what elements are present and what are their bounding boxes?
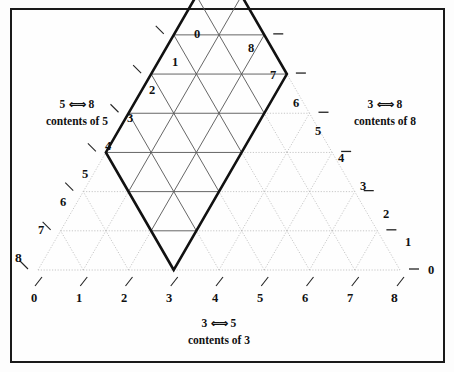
bottom-tick-label-0: 0	[31, 292, 37, 305]
left-tick-label-8: 8	[15, 251, 22, 265]
axis-tick-marks	[20, 0, 419, 286]
left-tick-label-7: 7	[38, 224, 44, 237]
right-tick-label-7: 7	[270, 69, 276, 82]
figure-page: 0 1 2 3 4 5 6 7 8 0 1 2 3 4 5 6 7 8 0 1 …	[0, 0, 454, 372]
left-tick-label-2: 2	[149, 84, 155, 97]
left-caption-to: 8	[88, 98, 94, 110]
right-tick-label-3: 3	[360, 180, 366, 193]
right-tick-label-1: 1	[405, 236, 411, 249]
bottom-axis-caption: 3 ⇐⇒ 5 contents of 3	[164, 315, 274, 349]
right-caption-from: 3	[367, 98, 373, 110]
right-tick-label-0: 0	[428, 264, 434, 277]
right-tick-label-2: 2	[383, 208, 389, 221]
bottom-caption-from: 3	[201, 317, 207, 329]
bottom-caption-to: 5	[230, 317, 236, 329]
right-caption-line2: contents of 8	[330, 113, 440, 130]
right-tick-label-4: 4	[338, 152, 344, 165]
bottom-tick-label-7: 7	[347, 292, 353, 305]
right-tick-label-6: 6	[293, 97, 299, 110]
left-tick-label-1: 1	[172, 56, 178, 69]
left-caption-arrows-icon: ⇐⇒	[69, 98, 85, 110]
left-axis-caption: 5 ⇐⇒ 8 contents of 5	[22, 96, 132, 130]
left-tick-label-0: 0	[194, 28, 200, 41]
right-caption-line1: 3 ⇐⇒ 8	[330, 96, 440, 113]
left-caption-from: 5	[59, 98, 65, 110]
bottom-caption-line2: contents of 3	[164, 332, 274, 349]
bottom-tick-label-3: 3	[166, 292, 172, 305]
right-tick-label-5: 5	[315, 125, 321, 138]
right-tick-label-8: 8	[248, 42, 254, 55]
bottom-tick-label-1: 1	[76, 292, 82, 305]
bottom-tick-label-2: 2	[121, 292, 127, 305]
left-tick-label-6: 6	[60, 196, 66, 209]
left-caption-line2: contents of 5	[22, 113, 132, 130]
bottom-tick-label-4: 4	[212, 292, 218, 305]
bottom-tick-label-5: 5	[257, 292, 263, 305]
left-caption-line1: 5 ⇐⇒ 8	[22, 96, 132, 113]
bottom-tick-label-6: 6	[302, 292, 308, 305]
left-tick-label-4: 4	[105, 140, 111, 153]
right-axis-caption: 3 ⇐⇒ 8 contents of 8	[330, 96, 440, 130]
right-caption-arrows-icon: ⇐⇒	[377, 98, 393, 110]
grid-lines-outside-region	[38, 0, 400, 270]
bottom-caption-arrows-icon: ⇐⇒	[211, 317, 227, 329]
bottom-caption-line1: 3 ⇐⇒ 5	[164, 315, 274, 332]
right-caption-to: 8	[396, 98, 402, 110]
left-tick-label-5: 5	[82, 168, 88, 181]
bottom-tick-label-8: 8	[391, 291, 398, 305]
